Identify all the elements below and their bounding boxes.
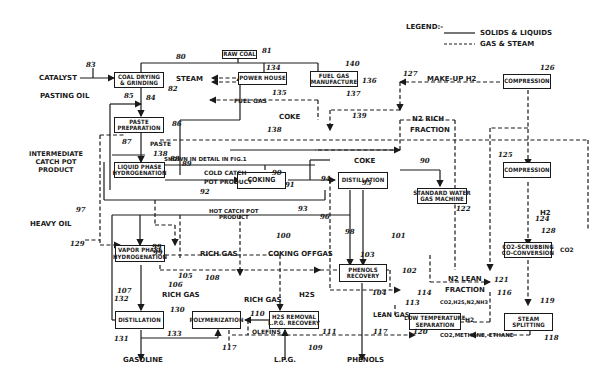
compression-top-box: COMPRESSION bbox=[503, 74, 551, 89]
coal-drying-grinding-box: COAL DRYING& GRINDING bbox=[114, 72, 164, 88]
ref-90a: 90 bbox=[272, 169, 282, 177]
ref-92: 92 bbox=[200, 188, 210, 196]
steam-splitting-box: STEAMSPLITTING bbox=[504, 313, 553, 331]
ref-86: 86 bbox=[172, 120, 182, 128]
ref-132: 132 bbox=[114, 295, 129, 303]
ref-104: 104 bbox=[372, 289, 387, 297]
ref-136: 136 bbox=[362, 77, 377, 85]
ref-103: 103 bbox=[360, 251, 375, 259]
distillation-bottom-box: DISTILLATION bbox=[115, 311, 164, 329]
gasoline-label: GASOLINE bbox=[123, 356, 163, 364]
olefins-label: OLEFINS bbox=[252, 328, 281, 336]
ref-117b: 117 bbox=[373, 328, 388, 336]
fuel-gas-label: FUEL GAS bbox=[234, 97, 267, 105]
phenols-recovery-box: PHENOLSRECOVERY bbox=[339, 264, 387, 282]
process-flow-diagram: LEGEND:- SOLIDS & LIQUIDS GAS & STEAM RA… bbox=[0, 0, 603, 384]
ref-89: 89 bbox=[182, 160, 192, 168]
h2s-label: H2S bbox=[299, 291, 315, 299]
ref-129: 129 bbox=[70, 240, 85, 248]
ref-120: 120 bbox=[413, 328, 428, 336]
ref-96: 96 bbox=[320, 213, 330, 221]
phenols-label: PHENOLS bbox=[347, 356, 384, 364]
coke-top-label: COKE bbox=[279, 113, 300, 121]
ref-106: 106 bbox=[168, 281, 183, 289]
ref-94: 94 bbox=[321, 175, 331, 183]
ref-99b: 99 bbox=[153, 249, 163, 257]
ref-131: 131 bbox=[114, 335, 129, 343]
ref-126: 126 bbox=[540, 64, 555, 72]
ref-81: 81 bbox=[262, 47, 272, 55]
ref-138b: 138 bbox=[153, 150, 168, 158]
pasting-oil-label: PASTING OIL bbox=[40, 92, 89, 100]
ref-109: 109 bbox=[308, 344, 323, 352]
ref-84: 84 bbox=[146, 94, 156, 102]
ref-101: 101 bbox=[391, 232, 406, 240]
make-up-h2-label: MAKE-UP H2 bbox=[427, 75, 476, 83]
legend-solid-label: SOLIDS & LIQUIDS bbox=[480, 29, 552, 37]
ref-117a: 117 bbox=[222, 344, 237, 352]
catalyst-label: CATALYST bbox=[39, 74, 77, 82]
ref-137: 137 bbox=[346, 90, 361, 98]
ref-118: 118 bbox=[544, 334, 559, 342]
ref-119: 119 bbox=[540, 297, 555, 305]
compression-mid-box: COMPRESSION bbox=[503, 162, 551, 178]
rich-gas-label-2: RICH GAS bbox=[162, 291, 200, 299]
hot-catch-pot-label: HOT CATCH POTPRODUCT bbox=[209, 208, 259, 220]
ref-125: 125 bbox=[498, 151, 513, 159]
intermediate-catch-pot-label: INTERMEDIATECATCH POTPRODUCT bbox=[29, 150, 83, 174]
rich-gas-label-1: RICH GAS bbox=[200, 250, 238, 258]
ref-97: 97 bbox=[76, 206, 86, 214]
ref-88: 88 bbox=[170, 155, 180, 163]
paste-preparation-box: PASTEPREPARATION bbox=[114, 117, 164, 133]
ref-135: 135 bbox=[272, 89, 287, 97]
polymerization-box: POLYMERIZATION bbox=[192, 311, 241, 329]
ref-85: 85 bbox=[124, 92, 134, 100]
ref-130: 130 bbox=[170, 306, 185, 314]
ref-133: 133 bbox=[167, 330, 182, 338]
ref-111: 111 bbox=[322, 328, 337, 336]
rich-gas-label-3: RICH GAS bbox=[244, 296, 282, 304]
lpg-label: L.P.G. bbox=[274, 356, 296, 364]
ref-116: 116 bbox=[497, 289, 512, 297]
ref-128: 128 bbox=[541, 227, 556, 235]
lean-gas-label: LEAN GAS bbox=[373, 311, 409, 319]
ref-93: 93 bbox=[298, 205, 308, 213]
ref-95: 95 bbox=[362, 179, 372, 187]
power-house-box: POWER HOUSE bbox=[238, 72, 287, 85]
co2-out-label: CO2 bbox=[560, 246, 574, 254]
ref-114: 114 bbox=[417, 289, 432, 297]
ref-121: 121 bbox=[494, 276, 509, 284]
h2s-removal-box: H2S REMOVALL.P.G. RECOVERY bbox=[269, 311, 319, 329]
heavy-oil-label: HEAVY OIL bbox=[30, 220, 72, 228]
ref-91: 91 bbox=[285, 181, 295, 189]
ref-90b: 90 bbox=[420, 157, 430, 165]
ref-102: 102 bbox=[402, 267, 417, 275]
ref-124: 124 bbox=[535, 215, 550, 223]
gases-label: CO2,H2S,N2,NH3 bbox=[440, 298, 488, 306]
ref-140: 140 bbox=[345, 60, 360, 68]
n2-lean-label: N2 LEAN bbox=[448, 275, 482, 283]
ref-80: 80 bbox=[176, 53, 186, 61]
ref-98: 98 bbox=[345, 228, 355, 236]
ref-82: 82 bbox=[168, 85, 178, 93]
ref-105: 105 bbox=[178, 272, 193, 280]
ref-87: 87 bbox=[122, 138, 132, 146]
ref-108: 108 bbox=[205, 274, 220, 282]
ref-127: 127 bbox=[403, 70, 418, 78]
ref-122: 122 bbox=[456, 205, 471, 213]
ref-83: 83 bbox=[86, 61, 96, 69]
paste-label: PASTE bbox=[150, 140, 171, 148]
coking-offgas-label: COKING OFFGAS bbox=[268, 250, 333, 258]
n2-lean-fraction-label: FRACTION bbox=[445, 286, 485, 294]
co2-methane-ethane-label: CO2,METHANE, ETHANE bbox=[440, 331, 514, 339]
n2-rich-fraction-label: FRACTION bbox=[410, 126, 450, 134]
raw-coal-box: RAW COAL bbox=[222, 50, 257, 59]
coke-mid-label: COKE bbox=[354, 157, 375, 165]
steam-label: STEAM bbox=[176, 75, 203, 83]
n2-rich-label: N2 RICH bbox=[412, 115, 444, 123]
ref-134: 134 bbox=[266, 64, 281, 72]
ref-110: 110 bbox=[250, 310, 265, 318]
pot-product-label: POT PRODUCT bbox=[204, 178, 252, 186]
cold-catch-label: COLD CATCH bbox=[204, 169, 247, 177]
fuel-gas-manufacture-box: FUEL GASMANUFACTURE bbox=[310, 71, 358, 87]
